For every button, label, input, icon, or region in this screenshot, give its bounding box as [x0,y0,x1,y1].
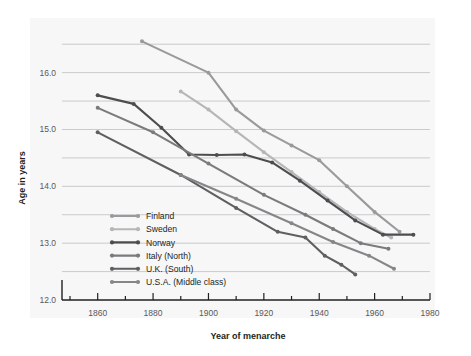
legend-item: Italy (North) [110,251,191,261]
data-point [262,193,266,197]
gridlines [62,44,430,271]
legend-item: Sweden [110,224,177,234]
y-tick-label: 12.0 [39,295,56,305]
data-point [339,263,343,267]
data-point [411,233,415,237]
data-point [206,108,210,112]
data-point [373,210,377,214]
y-tick-label: 14.0 [39,181,56,191]
legend-swatch-marker [110,214,114,218]
legend-item: Finland [110,211,175,221]
data-point [290,221,294,225]
legend-label: Italy (North) [146,251,191,261]
line-chart-svg: 12.013.014.015.016.0 1860188019001920194… [0,0,471,356]
legend-swatch-marker [136,267,140,271]
legend-swatch-marker [110,240,114,244]
legend-item: U.K. (South) [110,264,194,274]
y-tick-label: 13.0 [39,238,56,248]
data-point [367,254,371,258]
data-point [234,129,238,133]
data-point [206,162,210,166]
data-point [96,93,100,97]
x-tick-label: 1920 [254,308,273,318]
data-point [317,158,321,162]
legend-swatch-marker [110,280,114,284]
data-point [262,150,266,154]
legend: FinlandSwedenNorwayItaly (North)U.K. (So… [110,211,226,287]
data-point [353,218,357,222]
data-point [331,240,335,244]
data-point [353,272,357,276]
data-point [215,153,219,157]
x-tick-label: 1960 [365,308,384,318]
x-tick-labels: 1860188019001920194019601980 [88,308,439,318]
data-point [386,247,390,251]
data-point [234,197,238,201]
series-line [142,41,400,231]
y-tick-label: 15.0 [39,124,56,134]
data-point [303,235,307,239]
x-tick-label: 1860 [88,308,107,318]
data-point [179,173,183,177]
data-point [242,152,246,156]
data-point [398,230,402,234]
data-point [298,179,302,183]
legend-label: Norway [146,238,176,248]
data-point [151,130,155,134]
legend-swatch-marker [136,254,140,258]
legend-swatch-marker [110,267,114,271]
x-tick-label: 1940 [310,308,329,318]
data-point [206,71,210,75]
data-point [262,129,266,133]
legend-swatch-marker [136,240,140,244]
y-tick-labels: 12.013.014.015.016.0 [39,68,56,305]
x-axis-title: Year of menarche [210,331,285,341]
data-point [234,206,238,210]
legend-label: Sweden [146,224,177,234]
y-tick-label: 16.0 [39,68,56,78]
data-point [140,39,144,43]
legend-item: U.S.A. (Middle class) [110,277,226,287]
data-point [96,130,100,134]
data-point [323,254,327,258]
data-point [132,102,136,106]
data-point [290,143,294,147]
data-point [359,241,363,245]
data-point [345,184,349,188]
axes [62,280,430,300]
chart-figure: 12.013.014.015.016.0 1860188019001920194… [0,0,471,356]
legend-swatch-marker [136,227,140,231]
data-point [381,233,385,237]
legend-item: Norway [110,238,176,248]
data-point [389,235,393,239]
legend-swatch-marker [136,280,140,284]
series-line [181,91,391,237]
data-point [96,106,100,110]
series-line [98,132,356,274]
legend-swatch-marker [110,254,114,258]
data-point [276,230,280,234]
data-point [179,89,183,93]
data-point [270,160,274,164]
legend-label: U.K. (South) [146,264,193,274]
plot-area: 12.013.014.015.016.0 1860188019001920194… [0,0,471,356]
x-tick-label: 1880 [144,308,163,318]
data-point [234,108,238,112]
data-point [326,199,330,203]
x-tick-label: 1980 [421,308,440,318]
data-point [331,227,335,231]
legend-label: Finland [146,211,174,221]
y-axis-title: Age in years [17,151,27,205]
data-point [392,267,396,271]
x-tick-label: 1900 [199,308,218,318]
legend-swatch-marker [136,214,140,218]
data-point [159,126,163,130]
legend-swatch-marker [110,227,114,231]
data-point [303,213,307,217]
legend-label: U.S.A. (Middle class) [146,277,226,287]
